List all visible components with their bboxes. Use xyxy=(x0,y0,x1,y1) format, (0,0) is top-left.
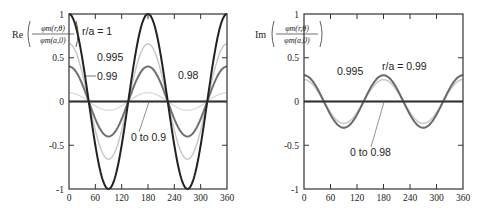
x-tick-label: 300 xyxy=(429,193,444,203)
left-chart: 06012018024030036010.50-0.5-1Reφm(r,θ)φm… xyxy=(12,10,234,204)
annotation-0995: 0.995 xyxy=(97,51,123,63)
y-tick-label: 0 xyxy=(294,97,299,107)
y-axis-label: Imφm(r,θ)φm(a,0) xyxy=(255,21,322,47)
y-tick-label: 0 xyxy=(59,97,64,107)
y-tick-label: 1 xyxy=(59,10,64,20)
x-tick-label: 240 xyxy=(167,193,182,203)
chart-figure: 06012018024030036010.50-0.5-1Reφm(r,θ)φm… xyxy=(0,0,487,214)
y-tick-label: -0.5 xyxy=(49,141,64,151)
svg-text:Im: Im xyxy=(255,29,266,40)
annotation-ra-1: r/a = 1 xyxy=(82,25,112,37)
svg-text:φm(a,0): φm(a,0) xyxy=(284,36,310,45)
x-tick-label: 300 xyxy=(194,193,209,203)
x-tick-label: 180 xyxy=(141,193,156,203)
y-axis-label: Reφm(r,θ)φm(a,0) xyxy=(12,21,78,47)
annotation-0-to-09: 0 to 0.9 xyxy=(131,131,166,143)
annotation-0995-right: 0.995 xyxy=(337,65,363,77)
x-tick-label: 240 xyxy=(403,193,418,203)
x-tick-label: 0 xyxy=(302,193,307,203)
x-tick-label: 180 xyxy=(376,193,391,203)
x-tick-label: 0 xyxy=(67,193,72,203)
svg-text:φm(a,0): φm(a,0) xyxy=(40,36,66,45)
svg-text:φm(r,θ): φm(r,θ) xyxy=(41,24,65,33)
y-tick-label: -1 xyxy=(56,185,64,195)
svg-text:Re: Re xyxy=(12,29,24,40)
y-tick-label: -0.5 xyxy=(284,141,299,151)
right-chart: 06012018024030036010.50-0.5-1Imφm(r,θ)φm… xyxy=(255,10,470,204)
annotation-0-to-098: 0 to 0.98 xyxy=(350,146,391,158)
x-tick-label: 360 xyxy=(456,193,471,203)
x-tick-label: 120 xyxy=(115,193,130,203)
x-tick-label: 60 xyxy=(326,193,336,203)
y-tick-label: 0.5 xyxy=(52,53,64,63)
annotation-098: 0.98 xyxy=(178,69,199,81)
annotation-ra-099: r/a = 0.99 xyxy=(382,60,427,72)
svg-text:φm(r,θ): φm(r,θ) xyxy=(285,24,309,33)
y-tick-label: 0.5 xyxy=(287,53,299,63)
y-tick-label: -1 xyxy=(291,185,299,195)
annotation-099: 0.99 xyxy=(97,70,118,82)
x-tick-label: 360 xyxy=(220,193,235,203)
x-tick-label: 60 xyxy=(91,193,101,203)
x-tick-label: 120 xyxy=(350,193,365,203)
y-tick-label: 1 xyxy=(294,10,299,20)
